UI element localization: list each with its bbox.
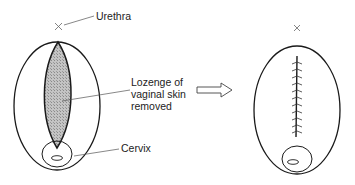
lozenge-label-line1: Lozenge of bbox=[131, 76, 183, 88]
cervical-os-right bbox=[288, 160, 299, 165]
urethra-marker-icon bbox=[294, 25, 300, 31]
transition-arrow-icon bbox=[197, 83, 232, 97]
cervix-label: Cervix bbox=[121, 142, 151, 154]
lozenge-excised-area bbox=[44, 42, 71, 148]
right-panel-after bbox=[254, 25, 340, 174]
lozenge-leader-line bbox=[62, 90, 130, 101]
urethra-label: Urethra bbox=[96, 10, 131, 22]
lozenge-label-line3: removed bbox=[131, 100, 172, 112]
cervix-leader-line bbox=[74, 149, 119, 156]
cervix-outline-right bbox=[282, 146, 312, 172]
lozenge-label-line2: vaginal skin bbox=[131, 88, 186, 100]
cervical-os-left bbox=[52, 156, 63, 161]
left-panel-before bbox=[14, 16, 130, 170]
urethra-leader-line bbox=[64, 16, 94, 25]
urethra-marker-icon bbox=[55, 23, 62, 30]
